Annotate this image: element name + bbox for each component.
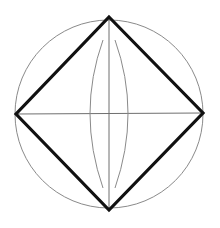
diagram-canvas — [0, 0, 220, 228]
right-construction-arc — [115, 40, 128, 188]
construction-diagram — [0, 0, 220, 228]
